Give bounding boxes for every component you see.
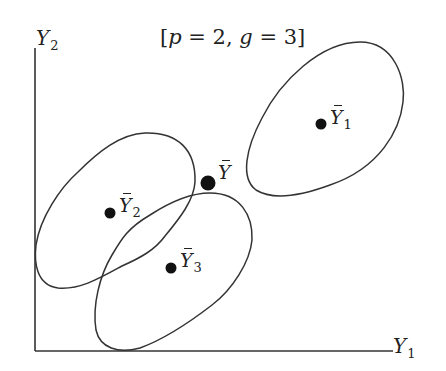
title-p-var: p bbox=[168, 25, 181, 49]
y-axis-label: Y2 bbox=[36, 28, 58, 48]
diagram-canvas bbox=[0, 0, 446, 371]
y-axis-label-main: Y bbox=[36, 26, 49, 50]
title-eq2: = 3] bbox=[253, 25, 306, 49]
x-axis-label-sub: 1 bbox=[407, 346, 415, 361]
diagram-title: [p = 2, g = 3] bbox=[160, 27, 305, 48]
group-1-ellipse bbox=[247, 42, 404, 196]
x-axis-label: Y1 bbox=[393, 336, 415, 356]
group-3-label-main: Y bbox=[180, 251, 193, 270]
group-2-label-sub: 2 bbox=[133, 205, 141, 220]
group-2-mean-dot bbox=[105, 208, 116, 219]
group-1-label-sub: 1 bbox=[344, 117, 352, 132]
group-means-diagram: [p = 2, g = 3] Y2 Y1 Y1 Y2 Y3 Y bbox=[0, 0, 446, 371]
title-open: [ bbox=[160, 25, 168, 49]
group-3-mean-label: Y3 bbox=[180, 251, 202, 270]
group-1-label-main: Y bbox=[330, 108, 343, 127]
title-eq1: = 2, bbox=[182, 25, 240, 49]
grand-mean-label: Y bbox=[218, 163, 231, 182]
group-1-mean-dot bbox=[316, 119, 327, 130]
title-g-var: g bbox=[239, 25, 252, 49]
grand-mean-label-main: Y bbox=[218, 163, 231, 182]
group-1-mean-label: Y1 bbox=[330, 108, 352, 127]
group-3-mean-dot bbox=[166, 263, 177, 274]
group-2-label-main: Y bbox=[119, 196, 132, 215]
x-axis-label-main: Y bbox=[393, 334, 406, 358]
grand-mean-dot bbox=[201, 176, 216, 191]
group-2-mean-label: Y2 bbox=[119, 196, 141, 215]
y-axis-label-sub: 2 bbox=[50, 38, 58, 53]
group-3-label-sub: 3 bbox=[194, 260, 202, 275]
